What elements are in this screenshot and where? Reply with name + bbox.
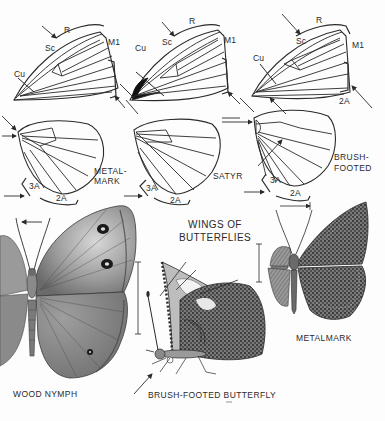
satyr-vein-2a-label: 2A (170, 195, 181, 205)
metalmark-vein-3a-label: 3A (29, 181, 40, 191)
metalmark-vein-cu-label: Cu (14, 69, 25, 79)
brush-footed-butterfly-caption: BRUSH-FOOTED BUTTERFLY (148, 390, 276, 400)
metalmark-specimen (256, 202, 368, 319)
brush-footed-butterfly-specimen (134, 262, 265, 402)
metalmark-family-label-line2: MARK (94, 176, 120, 186)
brush-footed-vein-r-label: R (316, 15, 322, 25)
satyr-vein-sc-label: Sc (162, 37, 172, 47)
field-guide-page: R Sc M1 Cu 3A 2A METAL- MARK R Sc M1 Cu … (0, 0, 385, 421)
figure-title-line1: WINGS OF (170, 218, 260, 231)
figure-title: WINGS OF BUTTERFLIES (170, 218, 260, 244)
metalmark-vein-r-label: R (64, 25, 70, 35)
brush-footed-vein-2a-label: 2A (290, 188, 301, 198)
satyr-vein-m1-label: M1 (224, 35, 236, 45)
wing-diagrams-illustration (0, 0, 385, 421)
brush-footed-vein-3a-label: 3A (270, 175, 281, 185)
brush-footed-vein-m1-label: M1 (352, 40, 364, 50)
brush-footed-vein-cu-label: Cu (253, 53, 264, 63)
satyr-vein-r-label: R (189, 16, 195, 26)
brush-footed-forewing-vein-2a-label: 2A (339, 96, 350, 106)
brush-footed-family-label-line1: BRUSH- (334, 152, 369, 162)
brush-footed-family-label-line2: FOOTED (334, 163, 372, 173)
metalmark-family-label-line1: METAL- (94, 166, 127, 176)
brush-footed-vein-sc-label: Sc (296, 36, 306, 46)
metalmark-vein-m1-label: M1 (108, 37, 120, 47)
wood-nymph-caption: WOOD NYMPH (13, 389, 77, 399)
satyr-family-label: SATYR (213, 171, 243, 181)
wood-nymph-specimen (0, 206, 141, 378)
figure-title-line2: BUTTERFLIES (170, 231, 260, 244)
metalmark-vein-2a-label: 2A (56, 193, 67, 203)
metalmark-caption: METALMARK (296, 333, 352, 343)
metalmark-vein-sc-label: Sc (45, 43, 55, 53)
satyr-vein-3a-label: 3A (146, 183, 157, 193)
satyr-vein-cu-label: Cu (135, 43, 146, 53)
